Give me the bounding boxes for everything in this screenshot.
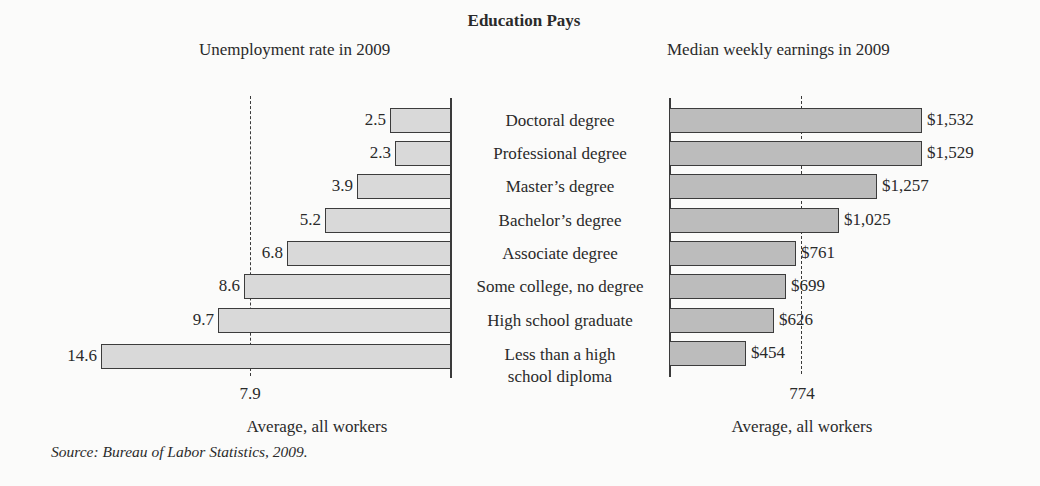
unemployment-value-label: 9.7 (154, 310, 214, 330)
unemployment-average-label: Average, all workers (207, 417, 427, 437)
earnings-value-label: $761 (801, 243, 835, 263)
earnings-bar (670, 241, 796, 266)
unemployment-panel-title: Unemployment rate in 2009 (199, 40, 390, 60)
unemployment-bar (218, 308, 450, 333)
figure-title: Education Pays (0, 11, 1040, 31)
category-label: High school graduate (450, 311, 670, 331)
unemployment-value-label: 3.9 (293, 176, 353, 196)
earnings-axis-line (669, 98, 671, 377)
unemployment-average-value: 7.9 (210, 384, 290, 404)
earnings-value-label: $1,532 (927, 110, 974, 130)
unemployment-value-label: 2.3 (331, 143, 391, 163)
category-label: Professional degree (450, 144, 670, 164)
category-label: Master’s degree (450, 177, 670, 197)
earnings-value-label: $1,529 (927, 143, 974, 163)
unemployment-bar (357, 174, 450, 199)
unemployment-average-line (250, 96, 251, 376)
unemployment-bar (287, 241, 450, 266)
category-label: Some college, no degree (450, 277, 670, 297)
earnings-bar (670, 274, 786, 299)
earnings-value-label: $699 (791, 276, 825, 296)
earnings-value-label: $1,257 (882, 176, 929, 196)
category-label: Associate degree (450, 244, 670, 264)
earnings-bar (670, 208, 839, 233)
earnings-average-value: 774 (762, 384, 842, 404)
earnings-panel-title: Median weekly earnings in 2009 (667, 40, 890, 60)
earnings-bar (670, 341, 746, 366)
category-label: Doctoral degree (450, 111, 670, 131)
unemployment-bar (395, 141, 450, 166)
unemployment-bar (244, 274, 450, 299)
unemployment-bar (101, 344, 450, 369)
unemployment-bar (325, 208, 450, 233)
earnings-bar (670, 174, 877, 199)
unemployment-value-label: 8.6 (180, 276, 240, 296)
earnings-bar (670, 141, 922, 166)
earnings-value-label: $626 (779, 310, 813, 330)
earnings-value-label: $454 (751, 343, 785, 363)
unemployment-axis-line (450, 98, 452, 378)
source-note: Source: Bureau of Labor Statistics, 2009… (51, 443, 308, 461)
category-label: Less than a high (450, 345, 670, 365)
category-label: Bachelor’s degree (450, 211, 670, 231)
earnings-average-label: Average, all workers (692, 417, 912, 437)
unemployment-value-label: 2.5 (326, 110, 386, 130)
unemployment-bar (390, 108, 450, 133)
earnings-average-line (801, 96, 802, 374)
earnings-value-label: $1,025 (844, 210, 891, 230)
category-label: school diploma (450, 367, 670, 387)
earnings-bar (670, 108, 922, 133)
unemployment-value-label: 6.8 (223, 243, 283, 263)
earnings-bar (670, 308, 774, 333)
unemployment-value-label: 14.6 (37, 346, 97, 366)
unemployment-value-label: 5.2 (261, 210, 321, 230)
